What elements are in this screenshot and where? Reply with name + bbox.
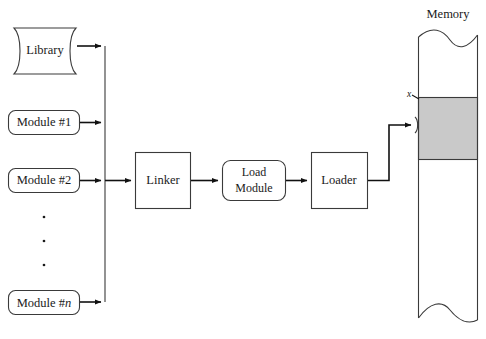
modules-ellipsis [43,216,46,267]
node-load-module: Load Module [223,161,286,201]
memory-bottom-torn-edge [419,304,478,322]
loader-label: Loader [321,173,357,187]
ellipsis-dot [43,264,46,267]
ellipsis-dot [43,240,46,243]
memory-entry-brace [415,117,418,133]
node-module-1: Module #1 [9,111,80,135]
diagram-canvas: Library Module #1 Module #2 Module #n [0,0,486,339]
module-n-label-prefix: Module # [17,295,66,309]
load-module-label-line-2: Module [235,181,272,195]
ellipsis-dot [43,216,46,219]
memory-column: x Memory [406,7,478,322]
linking-loading-diagram: Library Module #1 Module #2 Module #n [0,0,486,339]
memory-top-torn-edge [419,30,478,47]
module-n-label-index: n [65,295,71,309]
node-module-n: Module #n [9,291,80,315]
node-linker: Linker [136,153,191,209]
address-marker-label: x [406,89,412,99]
node-library: Library [14,28,76,74]
linker-label: Linker [146,173,180,187]
module-2-label: Module #2 [17,173,72,187]
memory-allocated-block [419,98,478,160]
node-module-2: Module #2 [9,169,80,193]
arrow-loader-to-memory [368,125,411,181]
library-label: Library [26,43,64,57]
module-n-label: Module #n [17,295,72,309]
memory-caption: Memory [426,7,470,21]
module-1-label: Module #1 [17,115,72,129]
node-loader: Loader [312,153,368,209]
load-module-label-line-1: Load [242,165,267,179]
